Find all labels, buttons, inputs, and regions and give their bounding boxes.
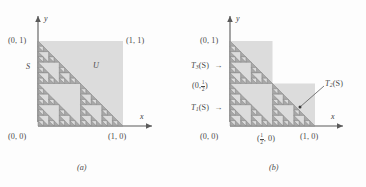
half-x-close: , 0) [264,134,275,143]
panel-a-caption: (a) [77,163,87,172]
half-y-open: (0, [192,81,201,90]
half-y-close: ) [205,81,208,90]
panel-a-y-axis-label: y [44,14,48,23]
panel-a-square-label-U: U [93,62,99,70]
panel-b-y-axis-label: y [236,14,240,23]
t1-argument: (S) [199,103,209,112]
panel-b-label-1-0: (1, 0) [300,133,318,141]
t3-arrow-icon: → [214,61,222,70]
panel-b: x y (0, 1) (0, 0) (1, 0) T3(S) → T1(S) →… [183,0,366,187]
panel-b-label-half-0: (12, 0) [257,133,275,145]
panel-a-label-0-1: (0, 1) [8,37,26,45]
panel-b-label-0-half: (0,12) [192,80,208,92]
panel-a-graphic [0,0,183,187]
t1-arrow-icon: → [214,103,222,112]
panel-b-label-t2: T2(S) [325,80,343,89]
panel-b-label-t3: T3(S) → [191,62,222,71]
panel-a-x-axis-label: x [140,112,144,121]
figure-container: x y (0, 1) (1, 1) (0, 0) (1, 0) S U (a) [0,0,366,187]
panel-a: x y (0, 1) (1, 1) (0, 0) (1, 0) S U (a) [0,0,183,187]
panel-b-label-0-1: (0, 1) [200,37,218,45]
t2-argument: (S) [333,79,343,88]
panel-a-label-0-0: (0, 0) [8,133,26,141]
panel-b-x-axis-label: x [331,112,335,121]
panel-a-set-label-S: S [26,63,30,71]
panel-b-graphic [183,0,366,187]
panel-a-label-1-1: (1, 1) [126,37,144,45]
panel-b-caption: (b) [269,163,279,172]
panel-b-label-t1: T1(S) → [191,104,222,113]
panel-a-label-1-0: (1, 0) [108,133,126,141]
t3-argument: (S) [199,61,209,70]
panel-b-label-0-0: (0, 0) [200,133,218,141]
